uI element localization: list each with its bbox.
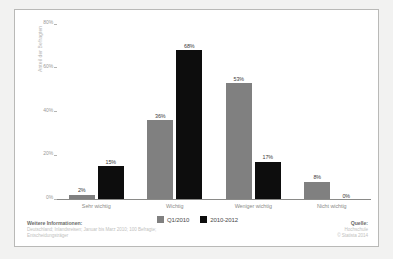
x-axis-category-label: Sehr wichtig: [57, 203, 136, 209]
x-axis-category-label: Nicht wichtig: [293, 203, 372, 209]
bar-groups: 2%15%36%68%53%17%8%0%: [57, 24, 371, 200]
bar-item[interactable]: 15%: [98, 23, 124, 199]
y-axis-tick-label: 60%: [43, 63, 53, 69]
bar-group: 36%68%: [136, 23, 215, 199]
bar-item[interactable]: 2%: [69, 23, 95, 199]
page-background: Anteil der Befragten 0%20%40%60%80% 2%15…: [0, 0, 393, 259]
bar-value-label: 53%: [234, 76, 245, 82]
footer-info-line: Deutschland; Inlandsreisen; Januar bis M…: [27, 227, 156, 234]
footer-source-block: Quelle: Hochschule© Statista 2014: [337, 220, 368, 240]
bar-item[interactable]: 8%: [304, 23, 330, 199]
bar-value-label: 17%: [263, 154, 274, 160]
footer-info-lines: Deutschland; Inlandsreisen; Januar bis M…: [27, 227, 156, 240]
bar-value-label: 8%: [313, 174, 321, 180]
x-axis-category-label: Wichtig: [136, 203, 215, 209]
bar-item[interactable]: 68%: [176, 23, 202, 199]
bar-value-label: 36%: [155, 113, 166, 119]
y-axis-tick-label: 0%: [46, 194, 53, 200]
bar-item[interactable]: 0%: [333, 23, 359, 199]
bar-value-label: 15%: [106, 159, 117, 165]
x-axis-line: [57, 199, 371, 200]
bar-item[interactable]: 53%: [226, 23, 252, 199]
plot-area: 0%20%40%60%80% 2%15%36%68%53%17%8%0%: [57, 24, 371, 200]
bar[interactable]: [255, 162, 281, 199]
y-axis-tick-label: 40%: [43, 107, 53, 113]
y-axis-title: Anteil der Befragten: [37, 26, 43, 72]
footer-source-lines: Hochschule© Statista 2014: [337, 227, 368, 240]
footer-source-heading: Quelle:: [337, 220, 368, 226]
bar[interactable]: [147, 120, 173, 199]
bar-item[interactable]: 17%: [255, 23, 281, 199]
bar[interactable]: [176, 50, 202, 199]
x-axis-category-labels: Sehr wichtigWichtigWeniger wichtigNicht …: [57, 203, 371, 213]
x-axis-category-label: Weniger wichtig: [214, 203, 293, 209]
bar-item[interactable]: 36%: [147, 23, 173, 199]
bar-value-label: 0%: [342, 193, 350, 199]
bar-group: 53%17%: [214, 23, 293, 199]
y-axis-tick-label: 20%: [43, 150, 53, 156]
chart-footer: Weitere Informationen: Deutschland; Inla…: [15, 220, 380, 240]
bar-value-label: 68%: [184, 43, 195, 49]
bar[interactable]: [98, 166, 124, 199]
bar-value-label: 2%: [78, 187, 86, 193]
chart-panel: Anteil der Befragten 0%20%40%60%80% 2%15…: [14, 9, 379, 247]
footer-info-line: Entscheidungsträger: [27, 233, 156, 240]
footer-source-line: © Statista 2014: [337, 233, 368, 240]
bar-group: 2%15%: [57, 23, 136, 199]
footer-info-heading: Weitere Informationen:: [27, 220, 156, 226]
footer-info-block: Weitere Informationen: Deutschland; Inla…: [27, 220, 156, 240]
bar[interactable]: [304, 182, 330, 200]
bar[interactable]: [226, 83, 252, 199]
y-axis-tick-label: 80%: [43, 19, 53, 25]
bar-group: 8%0%: [293, 23, 372, 199]
